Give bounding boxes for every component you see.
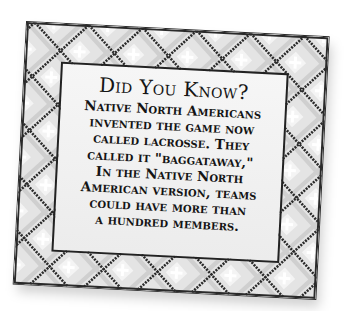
text-panel: Did You Know? Native North Americans inv…	[51, 62, 288, 263]
diamond-cross	[45, 75, 57, 79]
diamond-cell	[111, 22, 161, 26]
diamond-cell	[41, 296, 91, 299]
diamond-cross	[224, 274, 236, 278]
diamond-cell	[273, 22, 323, 34]
diamond-cell	[327, 22, 329, 37]
diamond-cross	[289, 61, 301, 65]
diamond-cross	[63, 266, 75, 270]
diamond-cross	[40, 183, 52, 187]
diamond-cell	[57, 22, 107, 23]
diamond-cross	[170, 271, 182, 275]
diamond-cross	[42, 129, 54, 133]
diamond-cross	[281, 223, 293, 227]
diamond-cell	[14, 22, 25, 46]
diamond-cross	[181, 55, 193, 59]
diamond-cross	[116, 268, 128, 272]
diamond-cell	[14, 49, 23, 99]
diamond-cell	[14, 157, 17, 207]
did-you-know-card: Did You Know? Native North Americans inv…	[14, 22, 329, 299]
diamond-cross	[284, 169, 296, 173]
diamond-cross	[235, 58, 247, 62]
diamond-cross	[37, 237, 49, 241]
diamond-inner	[327, 270, 329, 293]
diamond-cross	[73, 50, 85, 54]
diamond-cell	[14, 293, 37, 299]
diamond-cell	[14, 103, 20, 153]
diamond-cell	[219, 22, 269, 31]
diamond-cross	[127, 53, 139, 57]
patterned-frame: Did You Know? Native North Americans inv…	[14, 22, 329, 299]
diamond-cell	[165, 22, 215, 28]
diamond-cross	[278, 277, 290, 281]
card-body: Native North Americans invented the game…	[55, 96, 285, 237]
diamond-cross	[286, 115, 298, 119]
